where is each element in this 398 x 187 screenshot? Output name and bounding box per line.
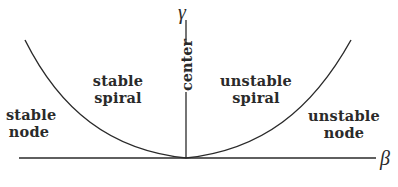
region-label-line: stable xyxy=(90,72,146,89)
region-label-unstable-spiral: unstable spiral xyxy=(220,72,292,106)
region-label-line: unstable xyxy=(308,107,380,124)
region-label-line: stable xyxy=(6,106,52,123)
region-label-line: spiral xyxy=(90,89,146,106)
region-label-line: node xyxy=(308,124,380,141)
region-label-center: center xyxy=(180,44,194,92)
beta-axis-label: β xyxy=(380,148,390,168)
region-label-line: node xyxy=(6,123,52,140)
region-label-unstable-node: unstable node xyxy=(308,107,380,141)
region-label-line: unstable xyxy=(220,72,292,89)
stability-diagram: γ β stable node stable spiral center uns… xyxy=(0,0,398,187)
gamma-axis-label: γ xyxy=(178,2,186,22)
region-label-stable-spiral: stable spiral xyxy=(90,72,146,106)
diagram-lines xyxy=(0,0,398,187)
region-label-line: spiral xyxy=(220,89,292,106)
region-label-stable-node: stable node xyxy=(6,106,52,140)
